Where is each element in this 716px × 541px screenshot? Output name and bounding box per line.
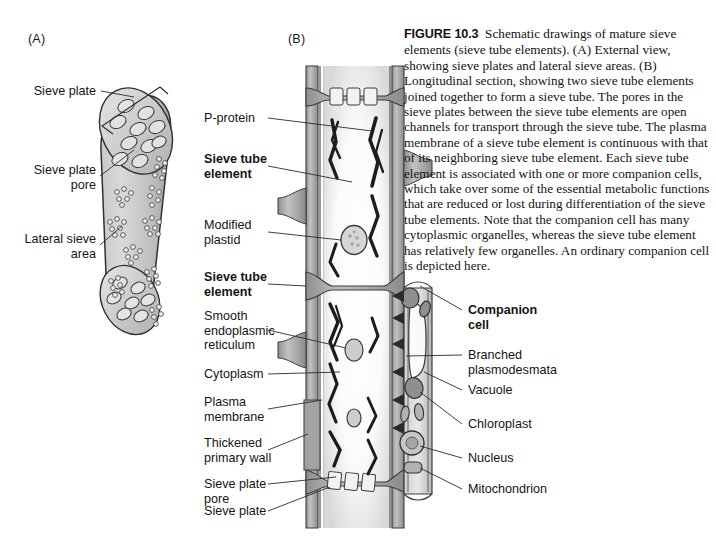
figure-caption: FIGURE 10.3 Schematic drawings of mature… xyxy=(404,26,712,274)
label-sieve-tube-element-2: Sieve tube element xyxy=(204,270,274,299)
sieve-plate-bottom-a xyxy=(89,255,172,345)
label-p-protein: P-protein xyxy=(204,111,268,126)
label-sieve-plate-a: Sieve plate xyxy=(0,84,96,99)
figure-number: FIGURE 10.3 xyxy=(404,27,479,41)
label-cytoplasm: Cytoplasm xyxy=(204,367,276,382)
label-mitochondrion: Mitochondrion xyxy=(468,482,588,497)
modified-plastid xyxy=(341,226,367,255)
sieve-plate-top-a xyxy=(85,75,186,186)
label-lateral-sieve-area-a: Lateral sieve area xyxy=(0,232,96,261)
figure-caption-text: Schematic drawings of mature sieve eleme… xyxy=(404,26,709,273)
label-companion-cell: Companion cell xyxy=(468,303,578,332)
label-branched-plasmodesmata: Branched plasmodesmata xyxy=(468,348,588,377)
sieve-pores-top-b xyxy=(330,88,377,105)
leader-sieve-plate-b xyxy=(268,487,330,511)
label-nucleus: Nucleus xyxy=(468,451,578,466)
label-sieve-plate-b: Sieve plate xyxy=(204,504,276,519)
label-vacuole: Vacuole xyxy=(468,383,578,398)
label-sieve-plate-pore-a: Sieve plate pore xyxy=(0,163,96,192)
label-sieve-tube-element-1: Sieve tube element xyxy=(204,152,274,181)
panel-a-cell xyxy=(85,75,186,344)
nucleus xyxy=(400,431,424,455)
label-plasma-membrane: Plasma membrane xyxy=(204,395,276,424)
label-thickened-primary-wall: Thickened primary wall xyxy=(204,436,282,465)
label-modified-plastid: Modified plastid xyxy=(204,218,274,247)
label-smooth-er: Smooth endoplasmic reticulum xyxy=(204,309,276,353)
figure-root: (A) (B) xyxy=(0,0,716,541)
label-chloroplast: Chloroplast xyxy=(468,417,578,432)
label-sieve-plate-pore-b: Sieve plate pore xyxy=(204,477,276,506)
